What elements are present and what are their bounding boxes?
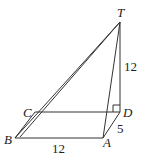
label-D: D [123, 106, 132, 119]
segment-TC [20, 22, 120, 137]
label-B: B [4, 133, 12, 146]
pyramid-diagram: T C D B A 12 12 5 [0, 0, 142, 156]
right-angle-marker [113, 105, 120, 112]
measure-AD: 5 [117, 122, 124, 135]
measure-TD: 12 [124, 60, 137, 73]
label-A: A [103, 136, 111, 149]
measure-BA: 12 [52, 142, 65, 155]
label-C: C [23, 106, 32, 119]
label-T: T [117, 6, 124, 19]
